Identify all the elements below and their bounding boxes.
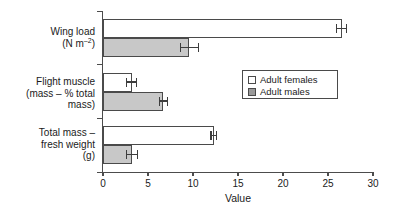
y-axis-tick bbox=[97, 64, 102, 65]
bar-adult-males bbox=[103, 92, 163, 111]
legend-item-adult-males: Adult males bbox=[248, 86, 337, 97]
category-label-wing-load: Wing load (N m–2) bbox=[0, 26, 95, 49]
x-axis-tick-label: 5 bbox=[145, 178, 151, 189]
unit-prefix: (N m bbox=[62, 38, 84, 49]
x-axis-title: Value bbox=[103, 192, 373, 204]
error-bar-cap bbox=[180, 43, 181, 52]
category-label-line: (mass – % total bbox=[0, 88, 95, 100]
bar-adult-males bbox=[103, 38, 189, 57]
category-label-flight-muscle: Flight muscle (mass – % total mass) bbox=[0, 76, 95, 111]
bar-chart: Wing load (N m–2) Flight muscle (mass – … bbox=[0, 0, 409, 212]
error-bar-line bbox=[126, 154, 137, 155]
category-label-line: fresh weight bbox=[0, 139, 95, 151]
x-axis-tick-label: 10 bbox=[187, 178, 198, 189]
legend-swatch-white-square-icon bbox=[248, 76, 256, 84]
error-bar-cap bbox=[126, 150, 127, 159]
x-axis-tick-label: 20 bbox=[277, 178, 288, 189]
x-axis-tick bbox=[282, 172, 283, 176]
category-label-line: mass) bbox=[0, 99, 95, 111]
x-axis-tick bbox=[102, 172, 103, 176]
category-label-total-mass: Total mass – fresh weight (g) bbox=[0, 127, 95, 162]
error-bar-cap bbox=[210, 131, 211, 140]
x-axis-tick bbox=[372, 172, 373, 176]
x-axis-tick bbox=[147, 172, 148, 176]
legend-label: Adult females bbox=[260, 75, 318, 85]
error-bar-cap bbox=[216, 131, 217, 140]
category-label-line: Total mass – bbox=[0, 127, 95, 139]
error-bar-cap bbox=[346, 24, 347, 33]
error-bar-cap bbox=[336, 24, 337, 33]
x-axis-tick-label: 30 bbox=[367, 178, 378, 189]
x-axis-tick bbox=[192, 172, 193, 176]
error-bar-cap bbox=[137, 150, 138, 159]
bar-adult-females bbox=[103, 126, 214, 145]
error-bar-cap bbox=[126, 78, 127, 87]
legend-swatch-gray-square-icon bbox=[248, 88, 256, 96]
error-bar-line bbox=[180, 47, 198, 48]
legend-label: Adult males bbox=[260, 87, 310, 97]
error-bar-cap bbox=[198, 43, 199, 52]
y-axis-tick bbox=[97, 172, 102, 173]
error-bar-cap bbox=[136, 78, 137, 87]
unit-suffix: ) bbox=[92, 38, 95, 49]
error-bar-cap bbox=[167, 97, 168, 106]
x-axis-tick bbox=[237, 172, 238, 176]
chart-legend: Adult females Adult males bbox=[242, 70, 338, 99]
category-label-line: Flight muscle bbox=[0, 76, 95, 88]
category-label-line: (N m–2) bbox=[0, 38, 95, 50]
x-axis-tick bbox=[327, 172, 328, 176]
category-label-line: Wing load bbox=[0, 26, 95, 38]
unit-exponent: –2 bbox=[84, 36, 92, 43]
x-axis-tick-label: 25 bbox=[322, 178, 333, 189]
category-label-line: (g) bbox=[0, 150, 95, 162]
legend-item-adult-females: Adult females bbox=[248, 74, 337, 85]
x-axis-tick-label: 0 bbox=[100, 178, 106, 189]
error-bar-cap bbox=[159, 97, 160, 106]
bar-adult-females bbox=[103, 19, 342, 38]
x-axis-tick-label: 15 bbox=[232, 178, 243, 189]
y-axis-tick bbox=[97, 11, 102, 12]
y-axis-tick bbox=[97, 118, 102, 119]
